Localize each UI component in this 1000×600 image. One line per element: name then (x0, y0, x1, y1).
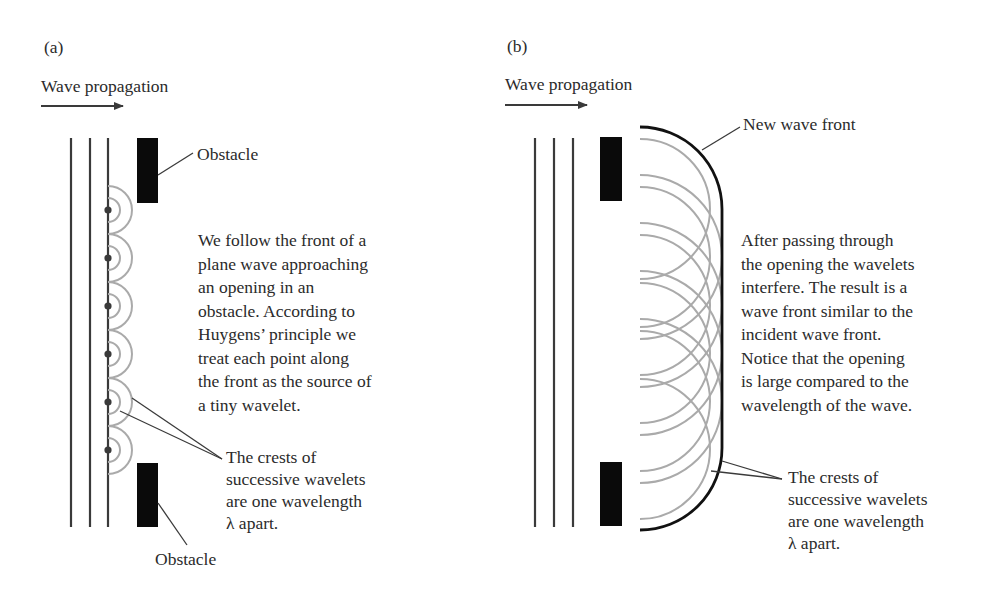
text-line: Huygens’ principle we (198, 323, 371, 347)
text-line: After passing through (741, 229, 915, 253)
text-line: plane wave approaching (198, 253, 371, 277)
text-line: are one wavelength (788, 510, 927, 532)
text-line: successive wavelets (226, 468, 365, 490)
text-line: We follow the front of a (198, 229, 371, 253)
plane-wave-fronts (71, 138, 108, 527)
text-line: treat each point along (198, 347, 371, 371)
text-line: a tiny wavelet. (198, 394, 371, 418)
obstacle-bottom (137, 463, 158, 527)
text-line: λ apart. (226, 512, 365, 534)
text-line: λ apart. (788, 532, 927, 554)
wavelets (108, 186, 132, 474)
text-line: the opening the wavelets (741, 253, 915, 277)
text-line: is large compared to the (741, 370, 915, 394)
text-line: The crests of (788, 466, 927, 488)
text-line: an opening in an (198, 276, 371, 300)
interfering-wavelets (640, 139, 722, 519)
panel-a-obstacle-top-label: Obstacle (197, 143, 258, 165)
text-line: The crests of (226, 446, 365, 468)
panel-b-crest-note: The crests of successive wavelets are on… (788, 466, 927, 554)
panel-b-new-front-label: New wave front (743, 113, 856, 135)
panel-a-crest-note: The crests of successive wavelets are on… (226, 446, 365, 534)
panel-a-graphics (41, 106, 222, 545)
panel-a-description: We follow the front of a plane wave appr… (198, 229, 371, 417)
obstacle-top (600, 137, 622, 201)
plane-wave-fronts (535, 138, 573, 527)
text-line: obstacle. According to (198, 300, 371, 324)
obstacle-top (137, 138, 158, 203)
text-line: interfere. The result is a (741, 276, 915, 300)
text-line: are one wavelength (226, 490, 365, 512)
text-line: wave front similar to the (741, 300, 915, 324)
panel-b-propagation-label: Wave propagation (505, 73, 632, 95)
text-line: successive wavelets (788, 488, 927, 510)
panel-a-propagation-label: Wave propagation (41, 75, 168, 97)
obstacle-bottom (600, 462, 622, 526)
panel-b-description: After passing through the opening the wa… (741, 229, 915, 417)
text-line: wavelength of the wave. (741, 394, 915, 418)
panel-a-label: (a) (44, 36, 63, 58)
panel-b-label: (b) (507, 35, 527, 57)
text-line: the front as the source of (198, 370, 371, 394)
text-line: incident wave front. (741, 323, 915, 347)
text-line: Notice that the opening (741, 347, 915, 371)
panel-a-obstacle-bottom-label: Obstacle (155, 548, 216, 570)
